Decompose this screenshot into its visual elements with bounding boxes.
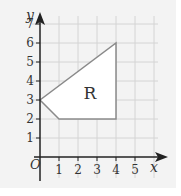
coordinate-grid: 7 6 5 4 3 2 1 1 2 3 4 5 O x y R [0,0,181,196]
y-tick-label: 6 [26,36,34,50]
x-tick-label: 2 [74,163,82,177]
x-axis-label: x [150,159,158,175]
y-tick-label: 1 [26,131,34,145]
origin-label: O [30,157,41,172]
x-tick-label: 4 [112,163,120,177]
x-tick-label: 3 [93,163,101,177]
x-tick-label: 1 [55,163,63,177]
region-label: R [84,83,98,103]
x-axis [34,152,168,162]
y-tick-label: 3 [26,93,34,107]
y-tick-label: 4 [26,74,34,88]
y-tick-label: 5 [26,55,34,69]
y-tick-label: 2 [26,112,34,126]
x-tick-label: 5 [131,163,139,177]
y-axis-label: y [25,7,35,23]
